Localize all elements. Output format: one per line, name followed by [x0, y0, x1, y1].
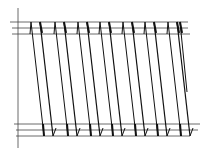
- top-mark: [177, 22, 179, 33]
- bottom-mark: [43, 124, 44, 136]
- top-mark: [87, 22, 89, 33]
- bottom-mark: [112, 124, 113, 136]
- bottom-v: [145, 128, 148, 136]
- bottom-mark: [90, 124, 91, 136]
- bottom-v: [122, 128, 125, 136]
- bottom-v: [100, 128, 103, 136]
- bottom-mark: [180, 124, 181, 136]
- rails: [10, 8, 200, 148]
- top-mark: [154, 22, 156, 33]
- bottom-v: [53, 128, 56, 136]
- bottom-mark: [135, 124, 136, 136]
- bottom-mark: [67, 124, 68, 136]
- bottom-v: [190, 128, 193, 136]
- bottom-mark: [157, 124, 158, 136]
- bottom-v: [167, 128, 170, 136]
- top-mark: [40, 22, 42, 33]
- top-mark: [180, 22, 182, 33]
- top-mark: [64, 22, 66, 33]
- top-mark: [109, 22, 111, 33]
- top-mark: [132, 22, 134, 33]
- zigzag-strokes: [30, 22, 193, 136]
- bottom-v: [77, 128, 80, 136]
- zigzag-diagram: [0, 0, 213, 159]
